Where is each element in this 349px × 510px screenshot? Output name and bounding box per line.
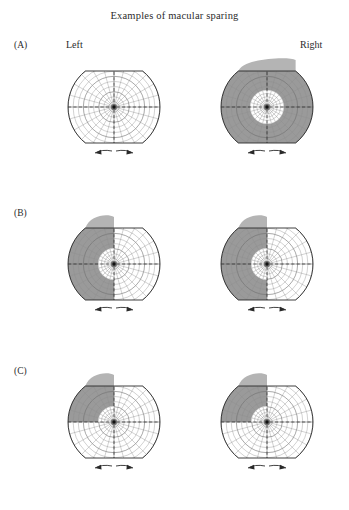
column-label-right: Right [300,39,322,50]
perimetry-chart-a-left [66,55,162,159]
perimetry-chart-c-left [66,370,162,474]
panel-label-c: (C) [14,366,27,376]
panel-label-b: (B) [14,208,27,218]
perimetry-chart-a-right [219,55,315,159]
figure-title: Examples of macular sparing [0,10,349,21]
perimetry-chart-b-right [219,212,315,316]
perimetry-chart-c-right [219,370,315,474]
column-label-left: Left [66,39,83,50]
perimetry-chart-b-left [66,212,162,316]
panel-label-a: (A) [14,40,27,50]
